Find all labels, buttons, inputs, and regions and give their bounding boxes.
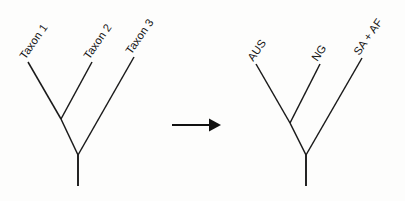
- right-tip-label-ng: NG: [309, 42, 329, 63]
- right-branch-aus: [256, 64, 290, 123]
- right-branch-inner-node: [290, 123, 306, 155]
- arrow-head-icon: [209, 119, 221, 132]
- left-branch-inner-node: [61, 119, 78, 155]
- transformation-arrow: [172, 119, 221, 132]
- right-branch-saaf: [306, 58, 362, 155]
- left-tip-label-taxon1: Taxon 1: [17, 22, 50, 62]
- right-tip-label-saaf: SA + AF: [351, 16, 385, 57]
- right-tip-label-aus: AUS: [245, 37, 268, 63]
- right-cladogram: AUS NG SA + AF: [245, 16, 385, 186]
- right-branch-ng: [290, 64, 320, 123]
- left-cladogram: Taxon 1 Taxon 2 Taxon 3: [17, 17, 156, 186]
- left-branch-taxon1: [28, 62, 61, 119]
- cladogram-figure: Taxon 1 Taxon 2 Taxon 3 AUS NG SA + AF: [0, 0, 405, 201]
- diagram-canvas: Taxon 1 Taxon 2 Taxon 3 AUS NG SA + AF: [0, 0, 405, 201]
- left-tip-label-taxon2: Taxon 2: [81, 22, 114, 62]
- left-branch-taxon2: [61, 62, 92, 119]
- left-tip-label-taxon3: Taxon 3: [123, 17, 156, 57]
